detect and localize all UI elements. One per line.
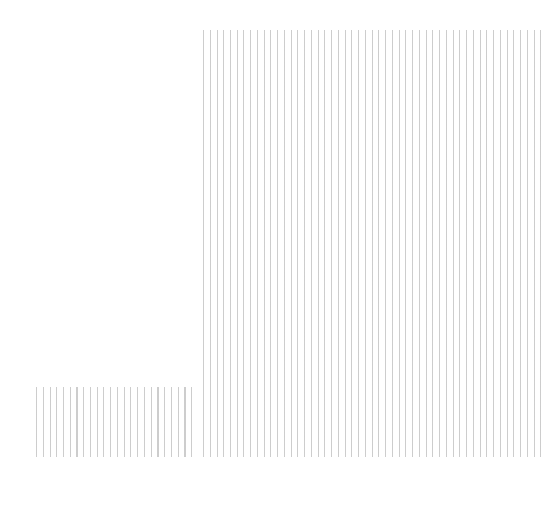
hatched-region-right <box>203 30 541 457</box>
hatched-region-left <box>36 387 198 457</box>
